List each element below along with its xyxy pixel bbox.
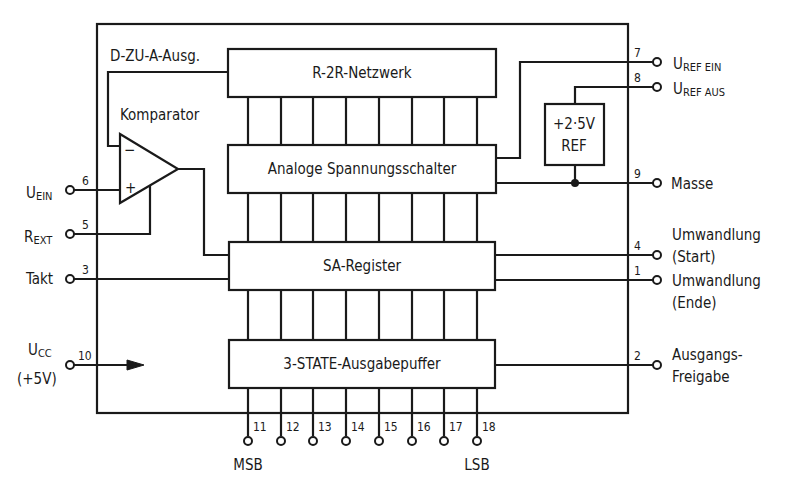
pin1-label: Umwandlung (Ende) — [672, 272, 761, 312]
pin9-label: Masse — [671, 175, 713, 193]
pin9-number: 9 — [634, 167, 641, 181]
pin12-terminal — [277, 437, 285, 445]
comparator-label: Komparator — [120, 106, 200, 124]
svg-text:(+5V): (+5V) — [17, 370, 57, 388]
pin18-terminal — [473, 437, 481, 445]
pin2-terminal — [653, 361, 661, 369]
svg-text:Ausgangs-: Ausgangs- — [672, 346, 743, 364]
svg-text:(Ende): (Ende) — [672, 294, 717, 312]
pin7-number: 7 — [634, 46, 641, 60]
adc-block-diagram: R-2R-Netzwerk Analoge Spannungsschalter … — [0, 0, 791, 489]
pin11-terminal — [244, 437, 252, 445]
switches-label: Analoge Spannungsschalter — [268, 160, 457, 178]
pin7-label: UREF EIN — [673, 55, 721, 74]
pin3-label: Takt — [25, 270, 53, 288]
svg-text:UCC: UCC — [28, 341, 52, 360]
pin5-terminal — [66, 230, 74, 238]
pin8-label: UREF AUS — [673, 80, 725, 99]
pin1-number: 1 — [634, 264, 641, 278]
r2r-label: R-2R-Netzwerk — [312, 64, 412, 82]
bus-r2r-to-switches — [248, 97, 477, 145]
lsb-label: LSB — [464, 456, 489, 474]
pin10-number: 10 — [78, 349, 92, 363]
pin1-terminal — [653, 276, 661, 284]
comparator-plus-sign: + — [125, 179, 136, 197]
pin6-number: 6 — [82, 174, 89, 188]
pin3-number: 3 — [82, 263, 89, 277]
bus-switches-to-sar — [248, 193, 477, 242]
pin4-number: 4 — [634, 239, 641, 253]
comparator-output-wire — [178, 169, 229, 255]
bus-sar-to-buffer — [248, 290, 477, 340]
pin16-number: 16 — [417, 420, 431, 434]
comparator-minus-sign: − — [124, 141, 135, 159]
pin9-terminal — [653, 179, 661, 187]
pin2-label: Ausgangs- Freigabe — [672, 346, 743, 386]
pin7-terminal — [653, 58, 661, 66]
pin10-terminal — [66, 361, 74, 369]
pin14-terminal — [342, 437, 350, 445]
pin6-terminal — [66, 186, 74, 194]
sar-label: SA-Register — [323, 257, 402, 275]
power-arrow-icon — [127, 360, 144, 370]
pin2-number: 2 — [634, 349, 641, 363]
svg-text:Umwandlung: Umwandlung — [672, 272, 761, 290]
pin10-label: UCC (+5V) — [17, 341, 57, 388]
svg-text:UREF EIN: UREF EIN — [673, 55, 721, 74]
ground-junction-dot — [571, 179, 579, 187]
pin5-number: 5 — [82, 218, 89, 232]
pin4-terminal — [653, 251, 661, 259]
pin12-number: 12 — [286, 420, 300, 434]
svg-text:REXT: REXT — [24, 228, 53, 247]
svg-text:UREF AUS: UREF AUS — [673, 80, 725, 99]
buffer-label: 3-STATE-Ausgabepuffer — [283, 355, 441, 373]
pin4-label: Umwandlung (Start) — [672, 226, 761, 266]
svg-text:Umwandlung: Umwandlung — [672, 226, 761, 244]
pin13-number: 13 — [318, 420, 332, 434]
svg-text:UEIN: UEIN — [26, 184, 52, 203]
svg-text:(Start): (Start) — [672, 248, 716, 266]
pin5-label: REXT — [24, 228, 53, 247]
reference-block — [545, 104, 604, 165]
pin13-terminal — [309, 437, 317, 445]
pin11-number: 11 — [253, 420, 267, 434]
pin17-terminal — [440, 437, 448, 445]
pin15-terminal — [375, 437, 383, 445]
pin3-terminal — [66, 275, 74, 283]
pin16-terminal — [408, 437, 416, 445]
pin8-terminal — [653, 83, 661, 91]
pin8-number: 8 — [634, 71, 641, 85]
pin15-number: 15 — [384, 420, 398, 434]
svg-text:Freigabe: Freigabe — [672, 368, 730, 386]
pin8-wire — [575, 87, 653, 104]
ref-label: REF — [561, 137, 587, 155]
dac-output-label: D-ZU-A-Ausg. — [110, 47, 200, 65]
pin14-number: 14 — [351, 420, 365, 434]
pin17-number: 17 — [449, 420, 463, 434]
pin6-label: UEIN — [26, 184, 52, 203]
msb-label: MSB — [233, 456, 262, 474]
pin18-number: 18 — [482, 420, 496, 434]
ref-voltage-label: +2·5V — [553, 115, 596, 133]
